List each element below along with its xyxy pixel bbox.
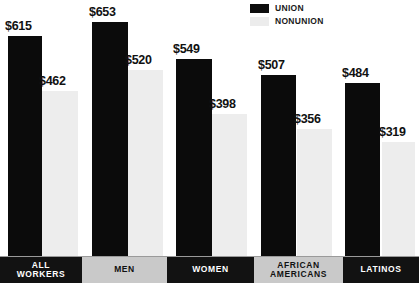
category-label: MEN — [114, 265, 135, 275]
bar-value-label: $507 — [258, 59, 285, 72]
bar-chart: UNIONNONUNION $615$462$653$520$549$398$5… — [0, 0, 419, 285]
banner-cell-0: ALL WORKERS — [0, 257, 82, 283]
category-label: ALL WORKERS — [17, 261, 66, 280]
bar-value-label: $484 — [342, 67, 369, 80]
bar-union-3 — [261, 75, 296, 257]
banner-cell-3: AFRICAN AMERICANS — [254, 257, 343, 283]
bar-union-0 — [8, 36, 42, 257]
banner-cell-2: WOMEN — [167, 257, 254, 283]
bar-nonunion-3 — [297, 129, 332, 257]
category-label: LATINOS — [361, 265, 402, 275]
bar-value-label: $615 — [5, 20, 32, 33]
bar-nonunion-2 — [212, 114, 247, 257]
bar-value-label: $319 — [379, 126, 406, 139]
category-banner: ALL WORKERSMENWOMENAFRICAN AMERICANSLATI… — [0, 257, 419, 283]
bar-value-label: $653 — [89, 6, 116, 19]
bar-union-4 — [345, 83, 380, 257]
category-label: WOMEN — [192, 265, 229, 275]
banner-cell-1: MEN — [82, 257, 167, 283]
bar-value-label: $462 — [39, 75, 66, 88]
bar-union-2 — [176, 59, 212, 257]
bar-value-label: $356 — [294, 113, 321, 126]
category-label: AFRICAN AMERICANS — [270, 261, 327, 280]
bar-nonunion-4 — [382, 142, 415, 257]
bar-value-label: $398 — [209, 98, 236, 111]
bar-value-label: $520 — [125, 54, 152, 67]
bar-nonunion-0 — [42, 91, 78, 257]
bar-union-1 — [92, 22, 128, 257]
banner-cell-4: LATINOS — [343, 257, 419, 283]
bar-value-label: $549 — [173, 43, 200, 56]
bar-nonunion-1 — [128, 70, 163, 257]
plot-area: $615$462$653$520$549$398$507$356$484$319 — [0, 0, 419, 258]
